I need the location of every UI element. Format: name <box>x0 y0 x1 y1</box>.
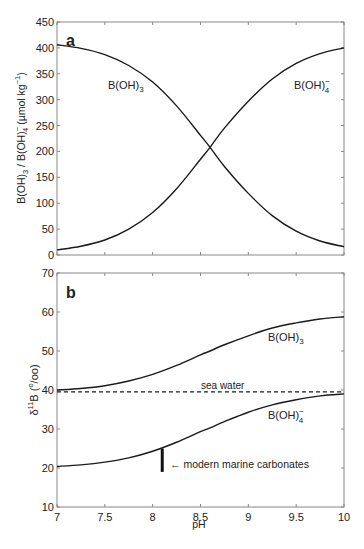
curve-boh4-delta11b <box>57 394 344 467</box>
y-tick-label: 250 <box>36 120 54 132</box>
panel-a: 050100150200250300350400450 a B(OH)3 B(O… <box>13 16 344 261</box>
panel-b: 10203040506070 77.588.599.510 b B(OH)3 B… <box>26 267 350 530</box>
y-tick-label: 150 <box>36 171 54 183</box>
series-label-boh3-b: B(OH)3 <box>268 331 304 346</box>
y-tick-label: 0 <box>48 249 54 261</box>
y-tick-label: 450 <box>36 16 54 28</box>
curve-boh3-concentration <box>57 45 344 247</box>
panel-a-frame <box>57 22 344 255</box>
y-tick-label: 10 <box>42 501 54 513</box>
y-tick-label: 70 <box>42 267 54 279</box>
y-tick-label: 300 <box>36 94 54 106</box>
x-axis-label: pH <box>192 518 205 530</box>
y-tick-label: 20 <box>42 462 54 474</box>
y-tick-label: 100 <box>36 197 54 209</box>
y-tick-label: 30 <box>42 423 54 435</box>
modern-carbonates-label: ← modern marine carbonates <box>170 458 309 470</box>
x-tick-label: 9.5 <box>289 511 304 523</box>
panel-a-x-ticks <box>57 22 344 255</box>
series-label-boh4-a: B(OH)−4 <box>294 77 330 95</box>
x-tick-label: 9 <box>245 511 251 523</box>
series-label-boh3-a: B(OH)3 <box>108 79 144 94</box>
curve-boh3-delta11b <box>57 317 344 390</box>
panel-a-y-ticks: 050100150200250300350400450 <box>36 16 344 261</box>
panel-a-y-axis-label: B(OH)3 / B(OH)−4 (µmol kg−1) <box>13 72 30 203</box>
y-tick-label: 60 <box>42 306 54 318</box>
panel-b-label: b <box>66 284 76 301</box>
x-tick-label: 7.5 <box>97 511 112 523</box>
y-tick-label: 50 <box>42 345 54 357</box>
y-tick-label: 200 <box>36 145 54 157</box>
figure: 050100150200250300350400450 a B(OH)3 B(O… <box>0 0 364 549</box>
series-label-boh4-b: B(OH)−4 <box>268 407 304 425</box>
x-tick-label: 8 <box>150 511 156 523</box>
y-tick-label: 50 <box>42 223 54 235</box>
y-tick-label: 40 <box>42 384 54 396</box>
panel-a-label: a <box>66 32 75 49</box>
y-tick-label: 350 <box>36 68 54 80</box>
panel-b-y-axis-label: δ11B (o/oo) <box>26 364 40 415</box>
sea-water-label: sea water <box>201 380 245 391</box>
x-tick-label: 7 <box>54 511 60 523</box>
x-tick-label: 10 <box>338 511 350 523</box>
y-tick-label: 400 <box>36 42 54 54</box>
panel-b-y-ticks: 10203040506070 <box>42 267 344 513</box>
